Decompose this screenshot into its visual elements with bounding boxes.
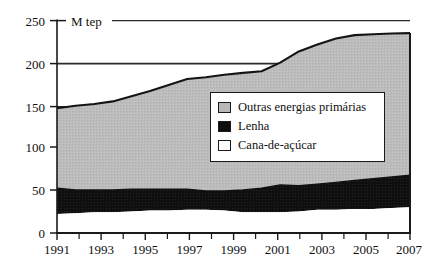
y-tick-label-150: 150 (26, 100, 46, 115)
legend-swatch-gray-icon (218, 102, 231, 113)
y-tick-label-250: 250 (26, 14, 46, 29)
x-tick-label-1999: 1999 (221, 242, 247, 257)
legend-swatch-black-icon (218, 121, 231, 132)
x-tick-label-2003: 2003 (309, 242, 335, 257)
y-tick-labels: 0 50 100 150 200 250 (26, 14, 46, 242)
y-tick-label-200: 200 (26, 57, 46, 72)
legend-label-outras-energias-primarias: Outras energias primárias (238, 101, 366, 114)
legend-label-lenha: Lenha (238, 120, 269, 133)
y-axis-unit-label: M tep (71, 14, 102, 29)
x-tick-labels: 1991 1993 1995 1997 1999 2001 2003 2005 … (44, 242, 423, 257)
legend-swatch-white-icon (218, 140, 231, 151)
x-tick-label-1997: 1997 (176, 242, 203, 257)
y-tick-label-50: 50 (32, 183, 45, 198)
x-tick-label-1993: 1993 (88, 242, 114, 257)
x-tick-label-2001: 2001 (265, 242, 291, 257)
x-ticks (57, 233, 410, 240)
x-tick-label-2005: 2005 (353, 242, 379, 257)
y-tick-label-0: 0 (39, 226, 46, 241)
legend-item-outras-energias-primarias: Outras energias primárias (218, 98, 377, 117)
x-tick-label-2007: 2007 (396, 242, 423, 257)
chart-container: 0 50 100 150 200 250 M tep (0, 0, 435, 268)
legend-item-lenha: Lenha (218, 117, 377, 136)
legend-label-cana-de-acucar: Cana-de-açúcar (238, 139, 316, 152)
y-tick-label-100: 100 (26, 140, 46, 155)
legend-item-cana-de-acucar: Cana-de-açúcar (218, 136, 377, 155)
chart-legend: Outras energias primárias Lenha Cana-de-… (210, 92, 385, 162)
x-tick-label-1995: 1995 (132, 242, 158, 257)
x-tick-label-1991: 1991 (44, 242, 70, 257)
